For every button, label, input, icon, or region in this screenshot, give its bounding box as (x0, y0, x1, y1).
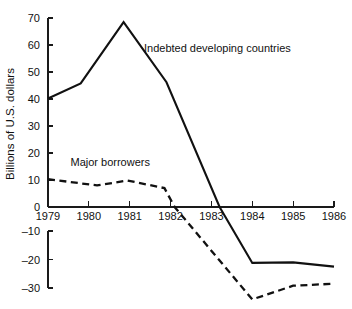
x-axis-tick-label: 1983 (199, 210, 223, 222)
x-axis-tick-label: 1986 (322, 210, 346, 222)
x-axis-tick-label: 1979 (36, 210, 60, 222)
y-axis-title-text: Billions of U.S. dollars (4, 68, 16, 180)
y-axis-tick-label: –10 (22, 225, 40, 237)
series-indebted-developing-countries (48, 22, 334, 267)
y-axis-tick-label: –20 (22, 254, 40, 266)
x-axis-tick-label: 1984 (240, 210, 264, 222)
y-axis-tick-label: –30 (22, 282, 40, 294)
chart-axes: 706050403020100–10–20–301979198019811982… (22, 12, 347, 294)
indebted-developing-countries-label: Indebted developing countries (144, 42, 291, 54)
y-axis-tick-label: 30 (28, 120, 40, 132)
x-axis-tick-label: 1985 (281, 210, 305, 222)
chart-annotations: Indebted developing countriesMajor borro… (70, 42, 291, 169)
line-chart: Billions of U.S. dollars 706050403020100… (0, 0, 352, 309)
y-axis-tick-label: 10 (28, 174, 40, 186)
y-axis-tick-label: 40 (28, 93, 40, 105)
x-axis-tick-label: 1981 (117, 210, 141, 222)
series-major-borrowers (48, 179, 334, 299)
x-axis-tick-label: 1980 (77, 210, 101, 222)
y-axis-tick-label: 50 (28, 66, 40, 78)
y-axis-tick-label: 20 (28, 147, 40, 159)
y-axis-title: Billions of U.S. dollars (4, 68, 16, 180)
major-borrowers-label: Major borrowers (70, 156, 150, 168)
chart-canvas: Billions of U.S. dollars 706050403020100… (0, 0, 352, 309)
y-axis-tick-label: 70 (28, 12, 40, 24)
y-axis-tick-label: 60 (28, 39, 40, 51)
x-axis-tick-label: 1982 (158, 210, 182, 222)
